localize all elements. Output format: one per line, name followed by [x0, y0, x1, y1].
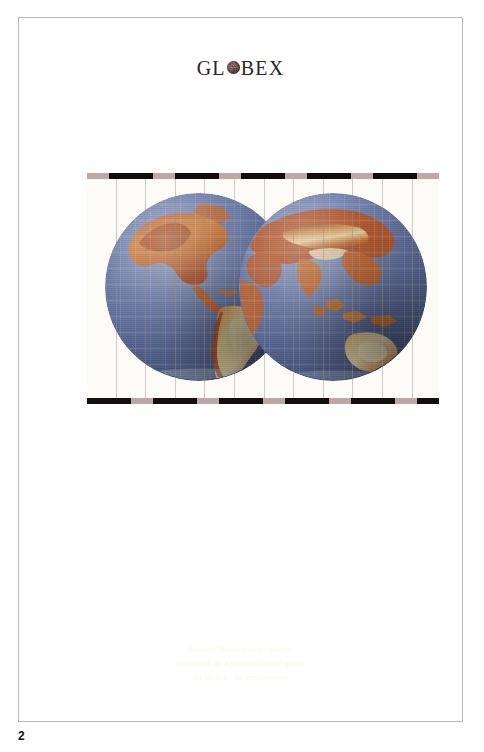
- plate-strip-bottom: [87, 398, 439, 404]
- photo-field: [87, 179, 439, 398]
- globe-sphere-icon: [227, 61, 240, 74]
- globe-print-grain: [239, 193, 427, 381]
- globe-photograph-plate: [87, 173, 439, 404]
- brand-logo: GLBEX: [19, 54, 462, 80]
- page-number: 2: [18, 729, 25, 743]
- caption-line: 24 inches / 61 centimetres: [19, 671, 462, 685]
- brand-prefix: GL: [197, 57, 226, 79]
- caption-line: displayed on a physical relief globe: [19, 657, 462, 671]
- brand-suffix: BEX: [241, 57, 285, 79]
- page-frame: GLBEX: [18, 17, 463, 722]
- plate-caption: Eastern/Western hemispheres displayed on…: [19, 643, 462, 685]
- caption-line: Eastern/Western hemispheres: [19, 643, 462, 657]
- globe-eastern-hemisphere: [239, 193, 427, 381]
